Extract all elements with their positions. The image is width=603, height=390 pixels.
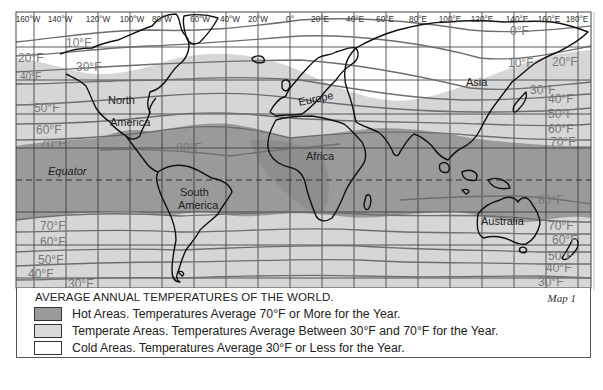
legend-item-cold: Cold Areas. Temperatures Average 30°F or… [34,339,405,356]
label-north-america: North [108,94,135,106]
lon-label: 80°E [409,15,427,24]
svg-text:50°F: 50°F [38,253,63,267]
legend: AVERAGE ANNUAL TEMPERATURES OF THE WORLD… [16,288,591,358]
svg-text:70°F: 70°F [548,219,573,233]
label-australia: Australia [481,215,525,227]
legend-item-temperate: Temperate Areas. Temperatures Average Be… [34,322,498,339]
lon-label: 80°W [152,15,172,24]
svg-text:30°F: 30°F [76,60,101,74]
lon-label: 120°W [86,15,111,24]
legend-label: Temperate Areas. Temperatures Average Be… [72,324,498,338]
svg-text:40°F: 40°F [548,92,573,106]
lon-label: 0° [286,15,294,24]
label-asia: Asia [466,76,488,88]
lon-label: 40°W [220,15,240,24]
svg-text:60°F: 60°F [40,235,65,249]
svg-text:40°F: 40°F [546,261,571,275]
svg-text:10°F: 10°F [508,56,533,70]
legend-label: Cold Areas. Temperatures Average 30°F or… [72,341,405,355]
cold-swatch [34,341,62,355]
svg-text:70°F: 70°F [40,137,65,151]
svg-text:80°F: 80°F [176,141,201,155]
map-number: Map 1 [548,292,576,304]
lon-label: 60°W [190,15,210,24]
equator-label: Equator [48,165,88,177]
lon-label: 120°E [471,15,494,24]
svg-text:60°F: 60°F [36,123,61,137]
svg-text:50°F: 50°F [548,107,573,121]
label-south-america: South [180,186,209,198]
svg-text:60°F: 60°F [552,233,577,247]
lon-label: 100°W [120,15,145,24]
legend-item-hot: Hot Areas. Temperatures Average 70°F or … [34,305,400,322]
svg-text:50°F: 50°F [34,101,59,115]
svg-text:40°F: 40°F [28,267,53,281]
lon-label: 140°E [506,15,529,24]
svg-text:30°F: 30°F [538,275,563,289]
svg-text:60°F: 60°F [548,122,573,136]
svg-text:20°F: 20°F [18,51,43,65]
lon-label: 140°W [48,15,73,24]
lon-label: 20°E [311,15,329,24]
svg-text:20°F: 20°F [552,55,577,69]
lon-label: 160°E [538,15,561,24]
lon-label: 180°E [566,15,589,24]
temperate-swatch [34,324,62,338]
lon-label: 40°E [346,15,364,24]
svg-text:80°F: 80°F [538,193,563,207]
label-africa: Africa [306,150,335,162]
label-south-america: America [178,199,219,211]
hot-swatch [34,307,62,321]
world-temperature-map: 160°W 140°W 120°W 100°W 80°W 60°W 40°W 2… [0,0,603,290]
svg-text:0°F: 0°F [510,24,529,38]
label-north-america: America [110,116,151,128]
svg-text:10°F: 10°F [66,36,91,50]
legend-label: Hot Areas. Temperatures Average 70°F or … [72,307,400,321]
map-title: AVERAGE ANNUAL TEMPERATURES OF THE WORLD… [35,291,334,303]
lon-label: 20°W [248,15,268,24]
svg-text:70°F: 70°F [40,219,65,233]
lon-label: 100°E [439,15,462,24]
lon-label: 60°E [376,15,394,24]
lon-label: 160°W [16,15,41,24]
svg-text:40°F: 40°F [20,71,41,82]
svg-text:70°F: 70°F [550,135,575,149]
